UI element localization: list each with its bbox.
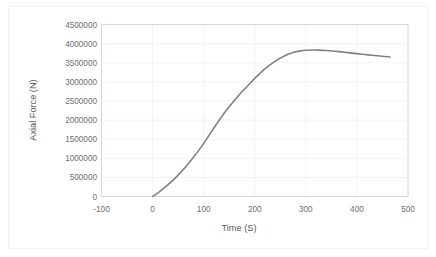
chart-figure: -1000100200300400500 0500000100000015000… xyxy=(0,0,436,257)
chart-canvas: -1000100200300400500 0500000100000015000… xyxy=(0,0,436,257)
y-tick-label: 4000000 xyxy=(65,40,97,49)
y-tick-label: 3000000 xyxy=(65,78,97,87)
series-line-axial-force xyxy=(153,50,391,196)
x-tick-label: 200 xyxy=(248,205,262,214)
y-tick-label: 4500000 xyxy=(65,21,97,30)
y-tick-label: 1500000 xyxy=(65,135,97,144)
y-tick-labels-group: 0500000100000015000002000000250000030000… xyxy=(65,21,97,202)
x-axis-title: Time (S) xyxy=(222,223,257,233)
y-tick-label: 2500000 xyxy=(65,97,97,106)
y-axis-title: Axial Force (N) xyxy=(28,79,38,140)
y-tick-label: 500000 xyxy=(70,173,98,182)
y-tick-label: 1000000 xyxy=(65,154,97,163)
x-tick-label: 300 xyxy=(299,205,313,214)
x-tick-label: 0 xyxy=(150,205,155,214)
x-tick-label: 100 xyxy=(197,205,211,214)
x-tick-labels-group: -1000100200300400500 xyxy=(93,205,415,214)
x-tick-label: 500 xyxy=(401,205,415,214)
y-tick-label: 0 xyxy=(92,193,97,202)
gridlines-group xyxy=(102,25,409,197)
y-tick-label: 2000000 xyxy=(65,116,97,125)
y-tick-label: 3500000 xyxy=(65,59,97,68)
x-tick-label: 400 xyxy=(350,205,364,214)
series-group xyxy=(153,50,391,196)
x-tick-label: -100 xyxy=(93,205,110,214)
